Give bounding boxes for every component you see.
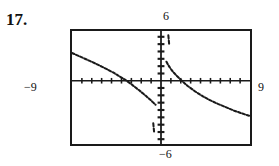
plot-area [72, 31, 250, 144]
window-label-xmax: 9 [258, 81, 264, 93]
graph-svg [72, 31, 250, 144]
y-axis-ticks [158, 37, 165, 139]
asymptote-lower-dash [153, 123, 154, 132]
problem-number-label: 17. [6, 11, 27, 28]
graphing-calculator-screen [70, 29, 252, 146]
figure-container: 17. [0, 0, 279, 166]
window-label-xmin: −9 [24, 81, 37, 93]
asymptote-upper-dash [168, 35, 169, 44]
window-label-ymin: −6 [159, 148, 172, 160]
window-label-ymax: 6 [163, 10, 169, 22]
y-axis [158, 31, 165, 144]
curve-left-branch [72, 53, 156, 105]
curve-right-branch [166, 62, 250, 116]
